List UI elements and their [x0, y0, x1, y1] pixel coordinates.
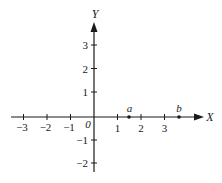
coordinate-diagram: −3 −2 −1 1 2 3 0 3 2 1 −1 −2 Y X a b	[0, 0, 222, 183]
x-tick-label: 1	[115, 122, 121, 134]
point-b-marker	[177, 115, 181, 119]
y-axis-arrow-icon	[91, 22, 98, 32]
y-axis-name: Y	[92, 7, 100, 21]
y-tick-label: 2	[83, 63, 89, 75]
y-tick-label: 1	[83, 86, 89, 98]
point-a-marker	[127, 115, 131, 119]
point-a-label: a	[127, 102, 133, 114]
x-tick-label: 2	[138, 122, 144, 134]
x-axis-name: X	[205, 110, 214, 124]
x-tick-label: −1	[63, 121, 75, 133]
x-tick-label: −2	[40, 121, 52, 133]
y-tick-label: −1	[76, 134, 88, 146]
origin-label: 0	[85, 118, 91, 130]
point-b-label: b	[176, 102, 182, 114]
y-tick-label: −2	[76, 157, 88, 169]
axes-svg: −3 −2 −1 1 2 3 0 3 2 1 −1 −2 Y X a b	[0, 0, 222, 183]
y-tick-label: 3	[83, 39, 89, 51]
x-tick-label: −3	[16, 121, 28, 133]
x-tick-label: 3	[162, 122, 168, 134]
x-axis-arrow-icon	[194, 114, 204, 121]
